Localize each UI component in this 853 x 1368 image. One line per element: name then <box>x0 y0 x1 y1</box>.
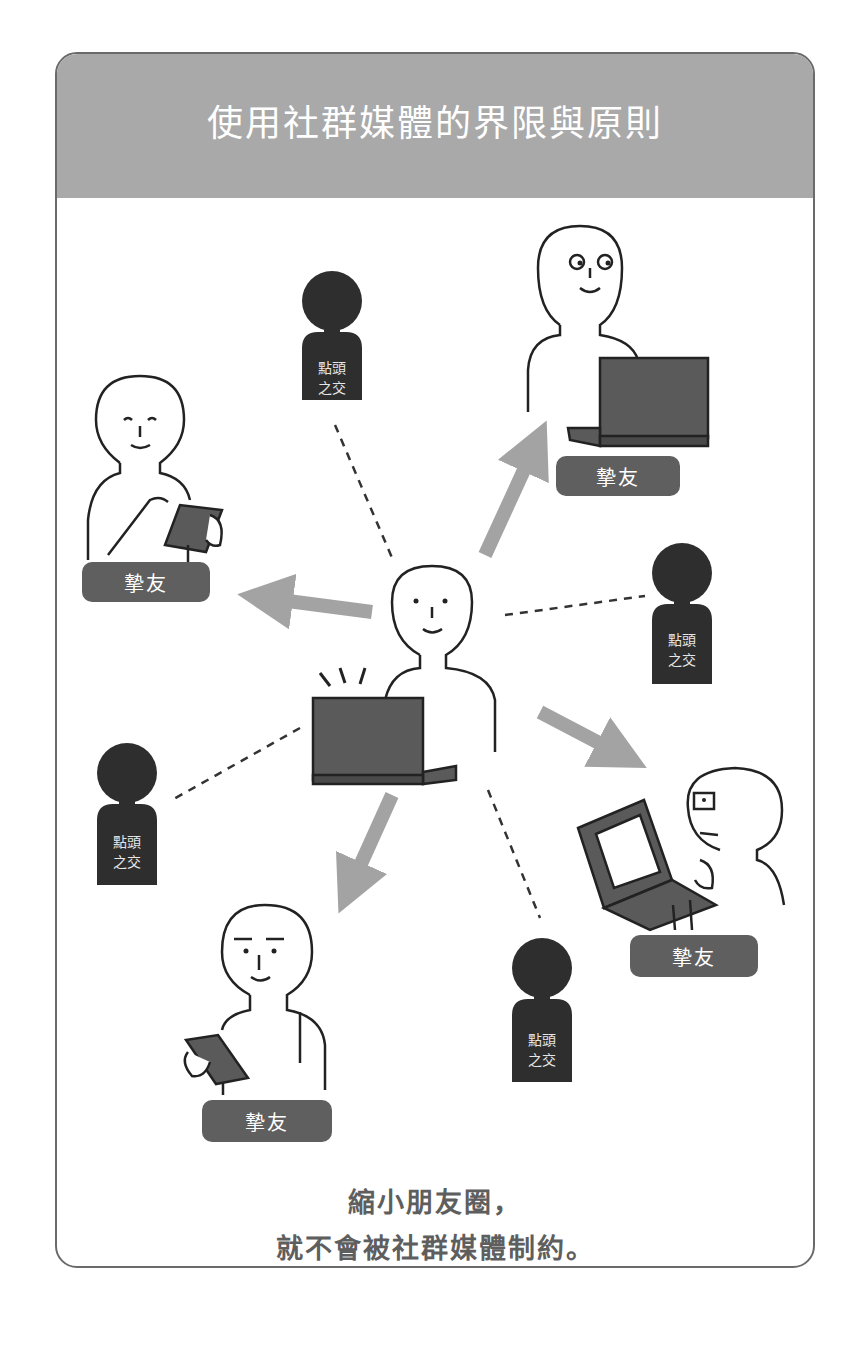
label-line2: 之交 <box>300 378 364 398</box>
friend-badge-right: 摯友 <box>630 935 758 977</box>
friend-top-right <box>528 226 708 446</box>
dashed-link-top <box>335 425 393 560</box>
dashed-link-left <box>172 728 300 800</box>
friend-badge-left: 摯友 <box>82 562 210 602</box>
friend-badge-top-right: 摯友 <box>556 456 680 496</box>
acquaintance-label-bottom: 點頭 之交 <box>510 1030 574 1070</box>
dashed-link-bottom <box>488 790 540 918</box>
dashed-link-right <box>505 596 645 615</box>
friend-right <box>578 768 784 930</box>
relationship-diagram <box>0 0 853 1368</box>
friend-badge-bottom-left: 摯友 <box>202 1100 332 1142</box>
arrow-bottom-left-icon <box>350 795 392 888</box>
label-line1: 點頭 <box>300 358 364 378</box>
caption-line2: 就不會被社群媒體制約。 <box>55 1226 815 1272</box>
arrow-right-icon <box>540 712 622 755</box>
caption: 縮小朋友圈， 就不會被社群媒體制約。 <box>55 1180 815 1272</box>
label-line1: 點頭 <box>650 630 714 650</box>
acquaintance-label-top: 點頭 之交 <box>300 358 364 398</box>
acquaintance-label-left: 點頭 之交 <box>95 832 159 872</box>
arrow-top-right-icon <box>485 446 535 555</box>
center-person <box>313 566 495 784</box>
label-line2: 之交 <box>510 1050 574 1070</box>
friend-bottom-left <box>185 905 325 1095</box>
caption-line1: 縮小朋友圈， <box>55 1180 815 1226</box>
acquaintance-label-right: 點頭 之交 <box>650 630 714 670</box>
friend-left <box>88 376 222 565</box>
diagram-stage: 點頭 之交 點頭 之交 點頭 之交 點頭 之交 摯友 摯友 摯友 摯友 縮小朋友… <box>0 0 853 1368</box>
label-line2: 之交 <box>95 852 159 872</box>
label-line1: 點頭 <box>95 832 159 852</box>
label-line1: 點頭 <box>510 1030 574 1050</box>
arrow-left-icon <box>265 598 372 612</box>
label-line2: 之交 <box>650 650 714 670</box>
